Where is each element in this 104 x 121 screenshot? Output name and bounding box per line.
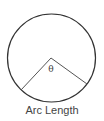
radius-right xyxy=(51,58,87,84)
arc-length-diagram: θ xyxy=(0,0,104,121)
angle-theta-label: θ xyxy=(48,64,53,74)
radius-left xyxy=(21,58,51,90)
caption: Arc Length xyxy=(0,104,104,116)
